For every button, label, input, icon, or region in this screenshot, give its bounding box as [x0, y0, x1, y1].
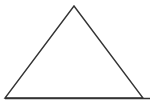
- diagram-canvas: [0, 0, 151, 108]
- triangle-shape: [5, 6, 143, 98]
